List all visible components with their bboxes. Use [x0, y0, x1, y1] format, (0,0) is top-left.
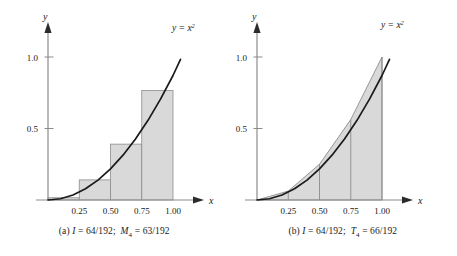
- y-ticks-a: [45, 57, 54, 129]
- caption-a-prefix: (a): [59, 226, 70, 236]
- midpoint-rectangles: [48, 91, 173, 200]
- trapezoid-region: [257, 57, 382, 200]
- x-tick-label-1-00-a: 1.00: [165, 206, 181, 216]
- caption-b-prefix: (b): [288, 226, 299, 236]
- curve-label-text-b: y = x2: [380, 19, 405, 31]
- caption-b-rule-sub: 4: [356, 231, 360, 239]
- caption-b-eq2: =: [362, 226, 367, 236]
- caption-b-eq1: =: [308, 226, 313, 236]
- x-tick-label-0-75-a: 0.75: [134, 206, 150, 216]
- y-tick-label-1-0-a: 1.0: [27, 53, 39, 63]
- caption-a-eq2: =: [135, 226, 140, 236]
- panel-b-trapezoid: y x 0.5 1.0 0.25 0.50 0.75 1.00 y = x2 (…: [229, 0, 457, 256]
- y-axis-a: [44, 22, 51, 200]
- y-tick-label-1-0-b: 1.0: [235, 53, 247, 63]
- caption-a-sep: ;: [113, 226, 116, 236]
- y-ticks-b: [253, 57, 262, 129]
- figure-midpoint-trapezoid: y x 0.5 1.0 0.25 0.50 0.75 1.00 y = x2 (…: [0, 0, 457, 256]
- panel-a-caption: (a) I = 64/192; M4 = 63/192: [0, 226, 229, 239]
- x-tick-label-0-25-a: 0.25: [71, 206, 87, 216]
- x-axis-label-a: x: [208, 195, 214, 206]
- y-axis-label-a: y: [42, 11, 48, 22]
- curve-annotation-b: y = x2: [380, 19, 405, 31]
- x-tick-label-0-50-b: 0.50: [311, 206, 327, 216]
- panel-b-caption: (b) I = 64/192; T4 = 66/192: [229, 226, 457, 239]
- caption-a-rule-symbol: M: [121, 226, 129, 236]
- x-tick-label-0-50-a: 0.50: [103, 206, 119, 216]
- caption-b-sep: ;: [343, 226, 346, 236]
- caption-a-rule-value: 63/192: [143, 226, 170, 236]
- panel-a-plot: y x 0.5 1.0 0.25 0.50 0.75 1.00 y = x2: [0, 0, 228, 226]
- caption-a-rule-sub: 4: [129, 231, 133, 239]
- curve-annotation-a: y = x2: [171, 22, 196, 34]
- y-axis-b: [253, 22, 260, 200]
- x-tick-label-0-25-b: 0.25: [280, 206, 296, 216]
- caption-a-i-value: 64/192: [86, 226, 113, 236]
- y-tick-label-0-5-b: 0.5: [235, 124, 247, 134]
- caption-b-rule-value: 66/192: [370, 226, 397, 236]
- x-tick-label-1-00-b: 1.00: [374, 206, 390, 216]
- y-axis-label-b: y: [251, 11, 257, 22]
- caption-b-i-symbol: I: [302, 226, 305, 236]
- y-tick-label-0-5-a: 0.5: [27, 124, 39, 134]
- curve-label-text-a: y = x2: [171, 22, 196, 34]
- caption-b-i-value: 64/192: [316, 226, 343, 236]
- panel-b-plot: y x 0.5 1.0 0.25 0.50 0.75 1.00 y = x2: [229, 0, 457, 226]
- x-axis-label-b: x: [417, 195, 423, 206]
- caption-a-eq1: =: [78, 226, 83, 236]
- panel-a-midpoint: y x 0.5 1.0 0.25 0.50 0.75 1.00 y = x2 (…: [0, 0, 229, 256]
- x-tick-label-0-75-b: 0.75: [342, 206, 358, 216]
- caption-a-i-symbol: I: [72, 226, 75, 236]
